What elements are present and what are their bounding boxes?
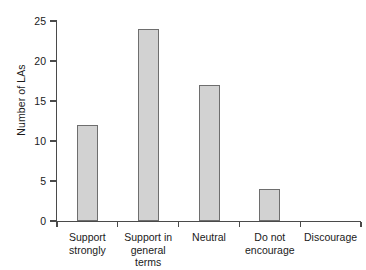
- y-tick-label: 0: [6, 216, 46, 226]
- y-tick-mark: [50, 20, 56, 21]
- y-tick-mark: [50, 220, 56, 221]
- y-tick-label-wrap: 5: [0, 176, 46, 186]
- y-tick-label: 15: [6, 96, 46, 106]
- x-tick-mark: [360, 222, 361, 227]
- y-tick-label-wrap: 10: [0, 136, 46, 146]
- y-tick-mark: [50, 100, 56, 101]
- x-axis-category-label: Discourage: [300, 231, 361, 244]
- y-tick-label: 10: [6, 136, 46, 146]
- bar: [199, 85, 220, 221]
- x-tick-mark: [117, 222, 118, 227]
- bar-chart: Number of LAs 0510152025 Support strongl…: [0, 0, 366, 270]
- bar: [259, 189, 280, 221]
- y-tick-mark: [50, 140, 56, 141]
- y-tick-mark: [50, 60, 56, 61]
- y-tick-label-wrap: 25: [0, 16, 46, 26]
- x-tick-mark: [178, 222, 179, 227]
- bar: [77, 125, 98, 221]
- y-tick-label: 25: [6, 16, 46, 26]
- y-tick-label-wrap: 20: [0, 56, 46, 66]
- y-tick-mark: [50, 180, 56, 181]
- y-tick-label: 20: [6, 56, 46, 66]
- x-axis-category-label: Do not encourage: [239, 231, 300, 256]
- y-tick-label-wrap: 15: [0, 96, 46, 106]
- x-axis-category-label: Support in general terms: [118, 231, 179, 269]
- x-axis-category-label: Support strongly: [57, 231, 118, 256]
- y-axis-line: [56, 20, 57, 222]
- x-tick-mark: [239, 222, 240, 227]
- x-axis-category-label: Neutral: [179, 231, 240, 244]
- x-tick-mark: [300, 222, 301, 227]
- x-tick-mark: [56, 222, 57, 227]
- bar: [138, 29, 159, 221]
- y-tick-label-wrap: 0: [0, 216, 46, 226]
- y-tick-label: 5: [6, 176, 46, 186]
